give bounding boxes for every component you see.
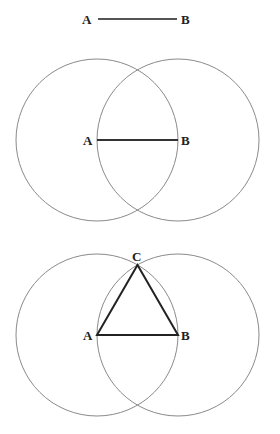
label-a: A bbox=[83, 328, 93, 343]
label-a: A bbox=[82, 12, 92, 27]
figure-equilateral-triangle: A B C bbox=[16, 249, 259, 416]
label-b: B bbox=[181, 328, 190, 343]
label-c: C bbox=[132, 249, 141, 264]
label-b: B bbox=[181, 133, 190, 148]
euclid-equilateral-triangle-construction: A B A B A B C bbox=[0, 0, 280, 434]
label-a: A bbox=[83, 133, 93, 148]
figure-segment-ab: A B bbox=[82, 12, 190, 27]
triangle-abc bbox=[97, 265, 178, 335]
figure-two-circles: A B bbox=[16, 59, 259, 221]
label-b: B bbox=[181, 12, 190, 27]
